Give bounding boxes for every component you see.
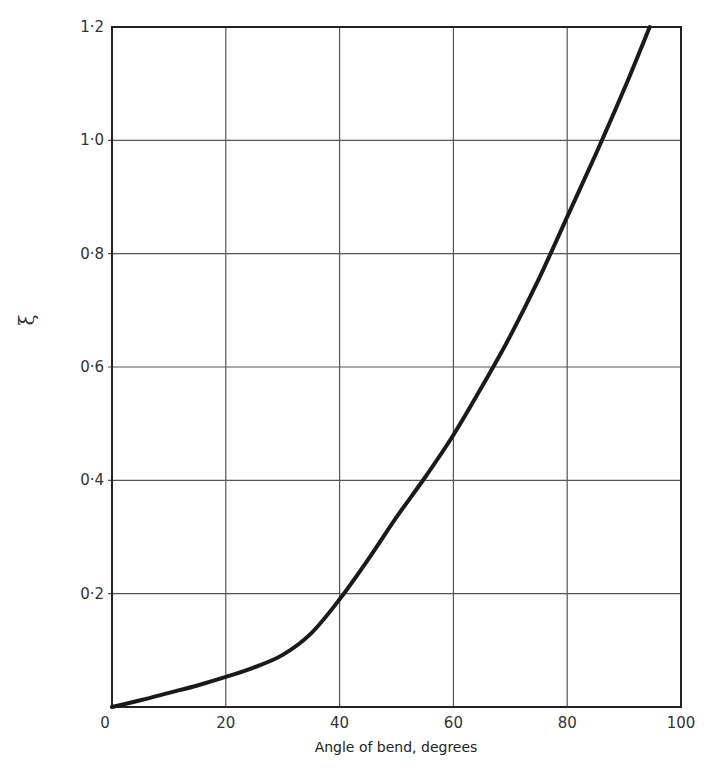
chart: 0·20·40·60·81·01·2 020406080100 Angle of… <box>0 0 720 778</box>
x-tick-labels: 020406080100 <box>100 714 695 732</box>
x-tick-label: 100 <box>667 714 696 732</box>
x-tick-label: 20 <box>216 714 235 732</box>
x-tick-label: 40 <box>330 714 349 732</box>
x-tick-label: 60 <box>444 714 463 732</box>
y-tick-label: 1·2 <box>80 18 104 36</box>
x-axis-title: Angle of bend, degrees <box>315 739 478 755</box>
y-tick-label: 0·4 <box>80 471 104 489</box>
y-tick-labels: 0·20·40·60·81·01·2 <box>80 18 104 603</box>
x-tick-label: 0 <box>100 714 110 732</box>
x-tick-label: 80 <box>558 714 577 732</box>
y-axis-title: ξ <box>15 314 39 325</box>
y-tick-label: 0·2 <box>80 585 104 603</box>
y-tick-label: 1·0 <box>80 131 104 149</box>
grid-lines <box>108 27 681 707</box>
y-tick-label: 0·8 <box>80 245 104 263</box>
y-tick-label: 0·6 <box>80 358 104 376</box>
